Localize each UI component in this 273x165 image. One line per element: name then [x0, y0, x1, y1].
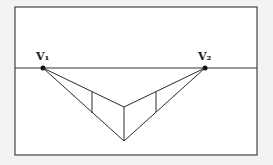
label-v2: V₂ — [197, 50, 212, 63]
diagram-frame — [15, 7, 257, 155]
perspective-diagram: V₁ V₂ — [0, 0, 273, 165]
label-v1: V₁ — [35, 50, 50, 63]
